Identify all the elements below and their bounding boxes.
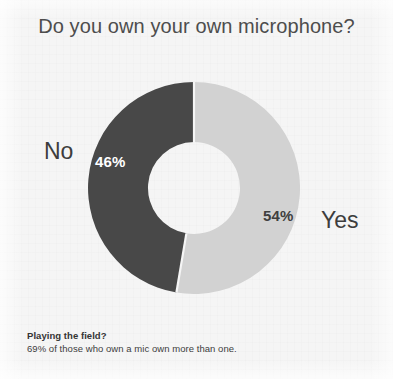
chart-title: Do you own your own microphone? (0, 15, 393, 38)
donut-slice-no[interactable] (88, 82, 194, 293)
footnote-heading: Playing the field? (27, 330, 357, 341)
slice-value-yes: 54% (263, 207, 294, 224)
slice-category-yes: Yes (321, 207, 359, 234)
footnote-body: 69% of those who own a mic own more than… (27, 343, 357, 354)
donut-chart-svg (88, 82, 300, 294)
donut-chart (88, 82, 300, 294)
footnote: Playing the field? 69% of those who own … (27, 330, 357, 354)
slice-value-no: 46% (95, 153, 126, 170)
chart-figure: Do you own your own microphone? 46% 54% … (0, 0, 393, 379)
slice-category-no: No (44, 138, 73, 165)
